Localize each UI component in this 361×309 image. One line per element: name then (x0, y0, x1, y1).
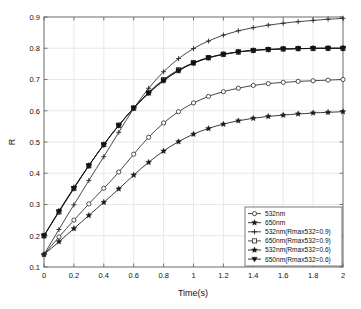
x-tick-label: 1.6 (278, 271, 288, 280)
legend-label: 532nm(Rmax532=0.9) (265, 228, 331, 236)
y-tick-label: 0.1 (30, 263, 40, 272)
x-tick-label: 0.4 (99, 271, 109, 280)
x-tick-label: 1.2 (218, 271, 228, 280)
y-tick-label: 0.8 (30, 44, 40, 53)
y-tick-label: 0.5 (30, 138, 40, 147)
x-tick-label: 0 (42, 271, 46, 280)
x-tick-label: 0.6 (128, 271, 138, 280)
x-tick-label: 1.8 (308, 271, 318, 280)
x-tick-label: 0.2 (69, 271, 79, 280)
legend-label: 532nm (265, 210, 286, 217)
y-tick-label: 0.2 (30, 232, 40, 241)
y-tick-label: 0.3 (30, 200, 40, 209)
legend-label: 532nm(Rmax532=0.6) (265, 246, 331, 254)
y-tick-label: 0.7 (30, 75, 40, 84)
legend-label: 650nm(Rmax532=0.9) (265, 237, 331, 245)
y-tick-label: 0.6 (30, 107, 40, 116)
y-axis-label: R (7, 138, 17, 145)
y-tick-label: 0.4 (30, 169, 40, 178)
line-chart: 00.20.40.60.811.21.41.61.820.10.20.30.40… (0, 0, 361, 309)
x-tick-label: 2 (341, 271, 345, 280)
x-axis-label: Time(s) (178, 288, 208, 298)
chart-legend[interactable]: 532nm650nm532nm(Rmax532=0.9)650nm(Rmax53… (245, 207, 342, 266)
y-tick-label: 0.9 (30, 13, 40, 22)
x-tick-label: 1.4 (248, 271, 258, 280)
legend-label: 650nm(Rmax532=0.6) (265, 256, 331, 264)
legend-label: 650nm (265, 219, 286, 226)
x-tick-label: 1 (191, 271, 195, 280)
chart-figure: 00.20.40.60.811.21.41.61.820.10.20.30.40… (0, 0, 361, 309)
x-tick-label: 0.8 (158, 271, 168, 280)
